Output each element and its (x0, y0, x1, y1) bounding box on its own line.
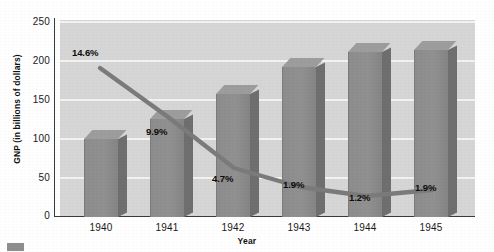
chart-figure: 250 200 150 100 50 0 (0, 0, 494, 252)
x-axis-title: Year (0, 236, 494, 246)
data-label-1940: 14.6% (72, 47, 98, 58)
data-label-1945: 1.9% (415, 182, 436, 193)
x-tick-label-1944: 1944 (333, 222, 397, 233)
data-label-1941: 9.9% (146, 126, 167, 137)
page-corner-mark (7, 243, 24, 251)
x-tick-label-1941: 1941 (135, 222, 199, 233)
x-tick-label-1942: 1942 (201, 222, 265, 233)
unemployment-rate-line (0, 0, 494, 252)
x-tick-label-1940: 1940 (69, 222, 133, 233)
x-tick-label-1945: 1945 (399, 222, 463, 233)
data-label-1942: 4.7% (212, 173, 233, 184)
y-axis-title: GNP (in billions of dollars) (12, 24, 22, 194)
x-tick-label-1943: 1943 (267, 222, 331, 233)
data-label-1944: 1.2% (349, 192, 370, 203)
data-label-1943: 1.9% (283, 179, 304, 190)
